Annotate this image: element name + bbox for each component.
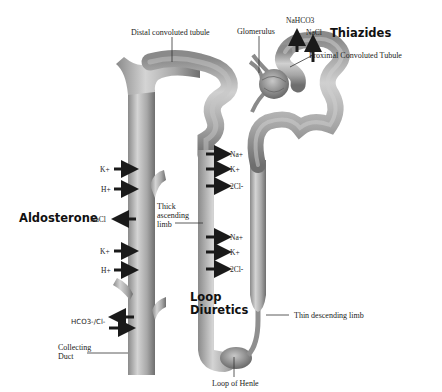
- ion-label-cd-k1: K+: [100, 165, 110, 174]
- ion-label-tal-na1: Na+: [230, 150, 243, 159]
- drug-label-loop-diuretics: Loop Diuretics: [190, 291, 248, 317]
- nephron-diagram: Distal convoluted tubule Glomerulus Prox…: [0, 0, 442, 392]
- loop-of-henle-shape: [220, 310, 258, 369]
- label-collecting-duct: Collecting Duct: [58, 343, 91, 361]
- label-glomerulus: Glomerulus: [237, 27, 275, 36]
- descending-limb-shape: [250, 160, 266, 312]
- ion-label-tal-2cl2: 2Cl-: [230, 265, 243, 274]
- label-thin-descending-limb: Thin descending limb: [294, 311, 364, 320]
- ion-label-cd-hco3-cl: HCO3-/Cl-: [71, 318, 105, 327]
- ion-label-cd-h1: H+: [101, 185, 111, 194]
- drug-label-thiazides: Thiazides: [330, 27, 391, 40]
- ion-label-tal-k1: K+: [230, 165, 240, 174]
- label-distal-convoluted-tubule: Distal convoluted tubule: [131, 28, 210, 37]
- ion-label-cd-nacl: NaCl: [90, 215, 106, 224]
- ion-label-cd-h2: H+: [101, 266, 111, 275]
- drug-label-aldosterone: Aldosterone: [19, 212, 98, 225]
- ion-label-tal-na2: Na+: [230, 233, 243, 242]
- ion-label-cd-k2: K+: [100, 247, 110, 256]
- label-loop-of-henle: Loop of Henle: [212, 379, 259, 388]
- label-thick-ascending-limb: Thick ascending limb: [157, 202, 189, 229]
- ion-label-tal-2cl1: 2Cl-: [230, 182, 243, 191]
- label-proximal-convoluted-tubule: Proximal Convoluted Tubule: [309, 51, 402, 60]
- ion-label-nahco3: NaHCO3: [286, 16, 314, 25]
- ion-label-tal-k2: K+: [230, 248, 240, 257]
- ion-label-pct-nacl: NaCl: [306, 28, 322, 37]
